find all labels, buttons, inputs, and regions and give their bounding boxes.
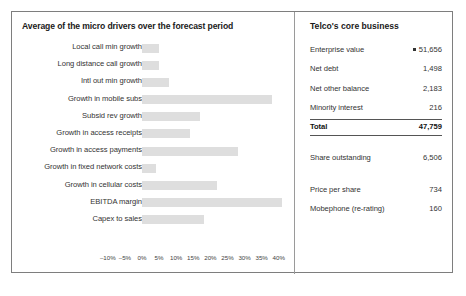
table-row: Mobephone (re-rating)160 [310,201,442,220]
table-row-value: 734 [429,185,442,194]
table-row-value: 160 [429,204,442,213]
table-row-label: Net other balance [310,84,369,93]
axis-tick-label: 35% [255,254,267,261]
axis-tick-label: 0% [138,254,147,261]
table-row-label: Price per share [310,185,361,194]
bar-fill [142,129,190,138]
bar-fill [142,147,238,156]
bar-category-label: Growth in cellular costs [65,180,142,189]
bar-row: Growth in access receipts [12,126,294,143]
bar-row: Growth in fixed network costs [12,160,294,177]
table-row-value: 2,183 [423,84,442,93]
total-rule-top [310,119,442,120]
table-row-value: 216 [429,103,442,112]
bar-row: Local call min growth [12,40,294,57]
bar-fill [142,164,156,173]
bar-row: Growth in cellular costs [12,178,294,195]
bar-category-label: EBITDA margin [90,197,142,206]
bar-category-label: Growth in fixed network costs [44,162,142,171]
bar-fill [142,44,159,53]
bar-row: Long distance call growth [12,57,294,74]
table-row-value: 51,656 [413,45,442,54]
bar-row: EBITDA margin [12,195,294,212]
bar-fill [142,181,217,190]
table-row: Minority interest216 [310,100,442,119]
axis-tick-label: 30% [238,254,250,261]
axis-tick-label: 15% [187,254,199,261]
table-row: Share outstanding6,506 [310,150,442,169]
table-row-value: 47,759 [419,122,442,131]
left-panel-title: Average of the micro drivers over the fo… [22,21,233,31]
bar-row: Intl out min growth [12,74,294,91]
table-row-value: 1,498 [423,64,442,73]
bar-fill [142,112,200,121]
bar-row: Growth in mobile subs [12,92,294,109]
table-row-label: Net debt [310,64,338,73]
table-row: Total47,759 [310,119,442,138]
total-rule-bottom [310,135,442,136]
table-row-value-text: 51,656 [419,45,442,54]
bullet-marker-icon [413,48,416,51]
table-row-label: Enterprise value [310,45,364,54]
axis-tick-label: 20% [204,254,216,261]
table-row: Net other balance2,183 [310,81,442,100]
bar-row: Growth in access payments [12,143,294,160]
bar-fill [142,61,159,70]
axis-tick-label: –10% [100,254,116,261]
x-axis: –10%–5%0%5%10%15%20%25%30%35%40% [12,254,294,268]
table-spacer [310,170,442,182]
bar-category-label: Local call min growth [72,42,142,51]
bar-category-label: Subsid rev growth [82,111,142,120]
table-row-label: Mobephone (re-rating) [310,204,385,213]
axis-tick-label: 10% [170,254,182,261]
micro-drivers-chart-panel: Average of the micro drivers over the fo… [12,12,294,274]
axis-tick-label: 40% [273,254,285,261]
table-row: Net debt1,498 [310,61,442,80]
bar-category-label: Growth in mobile subs [68,94,142,103]
bar-row: Subsid rev growth [12,109,294,126]
table-row-label: Total [310,122,327,131]
table-row: Enterprise value51,656 [310,42,442,61]
bar-category-label: Capex to sales [92,214,142,223]
table-row-label: Share outstanding [310,153,371,162]
core-business-table: Enterprise value51,656Net debt1,498Net o… [310,42,442,220]
bar-row: Capex to sales [12,212,294,229]
table-spacer [310,138,442,150]
bar-chart: Local call min growthLong distance call … [12,40,294,250]
bar-fill [142,95,272,104]
table-row: Price per share734 [310,182,442,201]
bar-category-label: Long distance call growth [58,59,142,68]
core-business-panel: Telco's core business Enterprise value51… [295,12,454,274]
bar-category-label: Intl out min growth [81,76,142,85]
table-row-value: 6,506 [423,153,442,162]
right-panel-title: Telco's core business [310,21,399,31]
axis-tick-label: –5% [119,254,131,261]
bar-fill [142,215,204,224]
bar-category-label: Growth in access receipts [56,128,142,137]
table-row-label: Minority interest [310,103,363,112]
axis-tick-label: 25% [221,254,233,261]
exhibit-frame: Average of the micro drivers over the fo… [11,11,453,273]
bar-fill [142,78,169,87]
axis-tick-label: 5% [155,254,164,261]
bar-fill [142,198,282,207]
bar-category-label: Growth in access payments [50,145,142,154]
